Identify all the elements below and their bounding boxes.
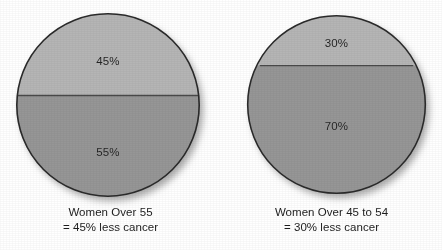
pie-caption: Women Over 45 to 54 = 30% less cancer (221, 205, 442, 234)
pie-graphic: 30% 70% (244, 12, 429, 197)
pie-caption-line-2: = 30% less cancer (221, 220, 442, 235)
pie-slice-label-bottom: 70% (325, 121, 348, 133)
pie-svg (13, 10, 203, 200)
pie-slice-top (13, 10, 203, 96)
pie-graphic: 45% 55% (13, 10, 203, 200)
pie-slice-label-top: 45% (96, 57, 119, 69)
pie-chart-women-over-45-to-54: 30% 70% Women Over 45 to 54 = 30% less c… (221, 0, 442, 250)
pie-chart-women-over-55: 45% 55% Women Over 55 = 45% less cancer (0, 0, 221, 250)
pie-slice-label-bottom: 55% (96, 147, 119, 159)
pie-caption-line-2: = 45% less cancer (0, 220, 221, 235)
pie-caption-line-1: Women Over 55 (0, 205, 221, 220)
pie-chart-figure: 45% 55% Women Over 55 = 45% less cancer (0, 0, 442, 250)
pie-slice-label-top: 30% (325, 39, 348, 51)
pie-caption: Women Over 55 = 45% less cancer (0, 205, 221, 234)
pie-caption-line-1: Women Over 45 to 54 (221, 205, 442, 220)
